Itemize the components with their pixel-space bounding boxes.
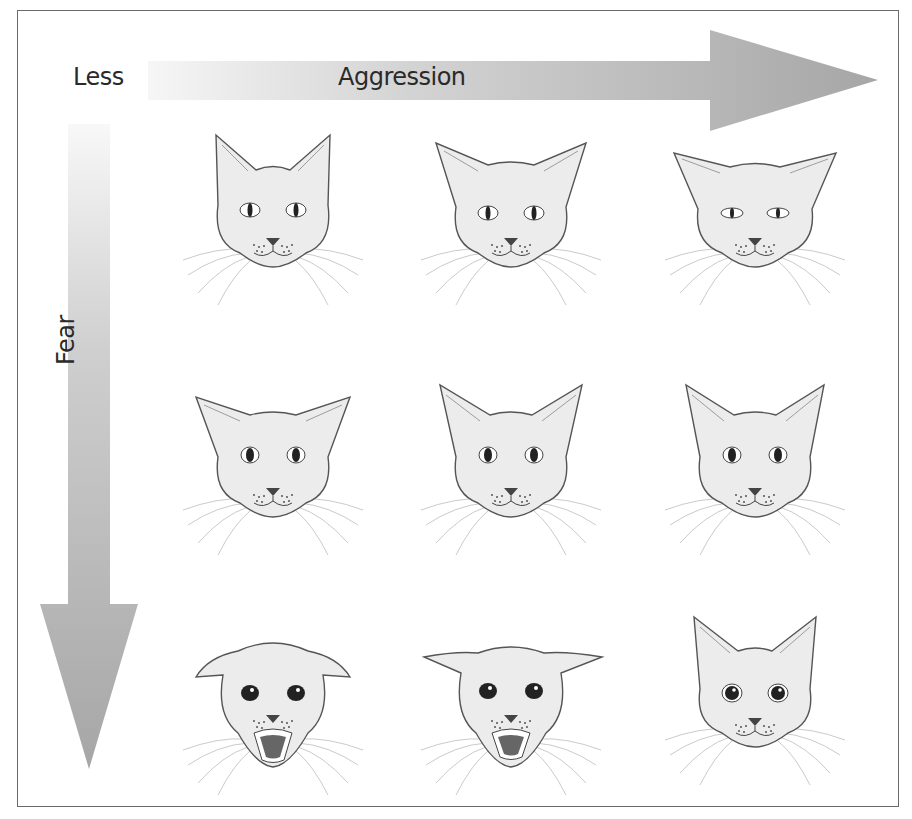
cat-face-r1c3: [660, 125, 850, 315]
fear-label: Fear: [52, 315, 80, 365]
cat-face-drawing: [178, 125, 368, 315]
fear-arrow: [38, 124, 140, 772]
cat-face-drawing: [660, 605, 850, 795]
cat-face-r3c3: [660, 605, 850, 795]
cat-face-r3c1: [178, 615, 368, 805]
cat-face-drawing: [178, 375, 368, 565]
cat-face-r3c2: [416, 615, 606, 805]
cat-face-drawing: [416, 375, 606, 565]
cat-face-r2c1: [178, 375, 368, 565]
cat-face-r1c1: [178, 125, 368, 315]
cat-face-drawing: [416, 615, 606, 805]
less-label: Less: [73, 63, 124, 91]
cat-face-r1c2: [416, 125, 606, 315]
cat-face-drawing: [416, 125, 606, 315]
cat-face-drawing: [660, 375, 850, 565]
aggression-label: Aggression: [338, 63, 466, 91]
aggression-arrow: [148, 30, 878, 132]
cat-face-drawing: [178, 615, 368, 805]
cat-face-r2c3: [660, 375, 850, 565]
cat-face-r2c2: [416, 375, 606, 565]
cat-face-drawing: [660, 125, 850, 315]
